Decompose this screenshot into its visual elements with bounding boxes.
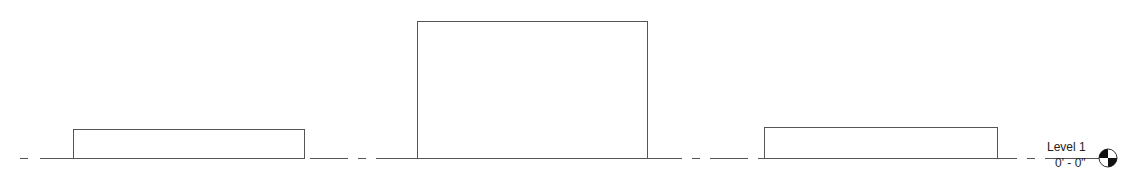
level-head-icon[interactable] <box>1099 149 1117 167</box>
level-name[interactable]: Level 1 <box>1047 140 1086 154</box>
mass-3[interactable] <box>765 128 998 159</box>
level-elevation[interactable]: 0' - 0" <box>1055 156 1086 170</box>
elevation-view <box>0 0 1133 187</box>
mass-2[interactable] <box>418 22 648 159</box>
mass-1[interactable] <box>74 130 305 159</box>
